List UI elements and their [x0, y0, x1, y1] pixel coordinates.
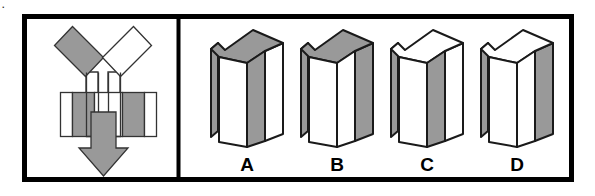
- option-D-right-face: [517, 51, 535, 147]
- corner-mark: .: [2, 1, 5, 10]
- option-B-label: B: [330, 154, 344, 175]
- option-D-left-flap: [481, 43, 488, 137]
- option-B-left-flap: [301, 43, 308, 137]
- option-A-left-flap: [211, 43, 218, 137]
- figure-canvas: A B C D: [0, 0, 595, 196]
- option-A-label: A: [240, 154, 254, 175]
- option-C-left-flap: [391, 43, 398, 137]
- band-left-end: [61, 93, 73, 137]
- option-C-front-face: [399, 57, 427, 147]
- option-A-right-flap: [265, 43, 283, 141]
- option-D-label: D: [510, 154, 524, 175]
- option-D-right-flap: [535, 43, 553, 141]
- band-right-inner: [123, 93, 145, 137]
- option-C-right-face: [427, 51, 445, 147]
- option-D-front-face: [489, 57, 517, 147]
- option-C-right-flap: [445, 43, 463, 141]
- band-right-end: [145, 93, 157, 137]
- option-A-right-face: [247, 51, 265, 147]
- option-A-front-face: [219, 57, 247, 147]
- option-B-right-face: [337, 51, 355, 147]
- option-B-right-flap: [355, 43, 373, 141]
- option-C-label: C: [420, 154, 434, 175]
- option-B-front-face: [309, 57, 337, 147]
- question-figure: .: [0, 0, 595, 196]
